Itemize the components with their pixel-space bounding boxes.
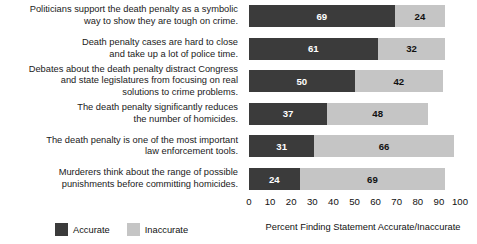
x-axis-title: Percent Finding Statement Accurate/Inacc… [249,222,477,232]
bar-row: 5042 [249,70,460,92]
legend-item-accurate[interactable]: Accurate [55,223,110,236]
bar-segment-inaccurate: 48 [327,103,428,125]
x-tick-label: 60 [370,196,381,207]
bar-segment-inaccurate: 24 [395,5,446,27]
bar-segment-inaccurate: 66 [314,135,453,157]
category-labels: Politicians support the death penalty as… [0,0,244,196]
chart-legend: AccurateInaccurate [55,223,188,236]
bar-row: 3748 [249,103,460,125]
bar-row: 2469 [249,168,460,190]
bar-segment-accurate: 69 [249,5,395,27]
bar-segment-accurate: 31 [249,135,314,157]
x-tick-label: 10 [265,196,276,207]
stacked-bar-chart: Politicians support the death penalty as… [0,0,477,244]
bar-segment-accurate: 50 [249,70,355,92]
legend-item-inaccurate[interactable]: Inaccurate [127,223,188,236]
bar-segment-inaccurate: 69 [300,168,446,190]
legend-label: Accurate [73,225,110,235]
x-tick-label: 70 [391,196,402,207]
x-tick-label: 0 [246,196,251,207]
plot-area: 692461325042374831662469 [249,0,460,196]
x-tick-label: 90 [434,196,445,207]
statement-label: Murderers think about the range of possi… [0,167,238,190]
legend-label: Inaccurate [145,225,188,235]
bar-segment-accurate: 37 [249,103,327,125]
bar-row: 3166 [249,135,460,157]
statement-label: Debates about the death penalty distract… [0,64,238,99]
x-tick-label: 100 [452,196,468,207]
x-tick-label: 80 [412,196,423,207]
bar-row: 6132 [249,38,460,60]
legend-swatch-icon [127,223,140,236]
legend-swatch-icon [55,223,68,236]
bar-segment-inaccurate: 42 [355,70,444,92]
bar-segment-inaccurate: 32 [378,38,446,60]
statement-label: Death penalty cases are hard to close an… [0,37,238,60]
x-tick-label: 50 [349,196,360,207]
x-tick-label: 20 [286,196,297,207]
statement-label: The death penalty significantly reduces … [0,102,238,125]
x-axis: 0102030405060708090100 [249,196,460,212]
bar-segment-accurate: 24 [249,168,300,190]
bar-segment-accurate: 61 [249,38,378,60]
statement-label: Politicians support the death penalty as… [0,4,238,27]
statement-label: The death penalty is one of the most imp… [0,135,238,158]
x-tick-label: 40 [328,196,339,207]
x-tick-label: 30 [307,196,318,207]
bar-row: 6924 [249,5,460,27]
